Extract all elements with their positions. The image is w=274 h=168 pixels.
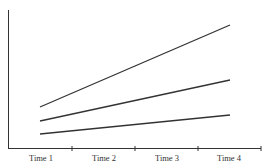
x-tick-label: Time 4 [217, 153, 242, 163]
series-line-3 [40, 115, 230, 134]
chart-svg: Time 1Time 2Time 3Time 4 [0, 0, 274, 168]
x-tick-label: Time 2 [92, 153, 116, 163]
series-line-2 [40, 80, 230, 121]
x-tick-label: Time 1 [29, 153, 53, 163]
x-tick-labels: Time 1Time 2Time 3Time 4 [29, 153, 242, 163]
series-line-1 [40, 25, 230, 107]
x-tick-label: Time 3 [155, 153, 179, 163]
line-chart: Time 1Time 2Time 3Time 4 [0, 0, 274, 168]
series-lines [40, 25, 230, 134]
